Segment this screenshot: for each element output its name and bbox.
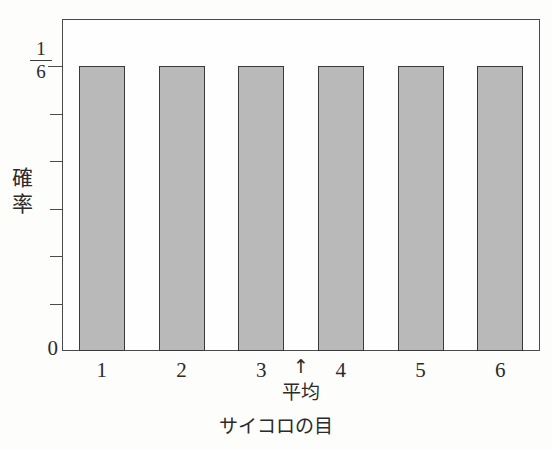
fraction-denominator: 6 [28,62,54,82]
x-tick-label-5: 5 [401,359,441,381]
x-tick-label-3: 3 [241,359,281,381]
bar-6 [477,66,523,351]
x-tick-label-1: 1 [82,359,122,381]
y-tick-minor-3 [50,209,63,210]
y-tick-minor-4 [50,256,63,257]
bar-5 [398,66,444,351]
y-tick-label-zero: 0 [38,338,58,359]
x-tick-label-4: 4 [321,359,361,381]
y-tick-minor-5 [50,304,63,305]
y-axis-title-char-2: 率 [9,191,35,217]
mean-arrow-icon: ↑ [289,356,313,376]
bar-4 [318,66,364,351]
y-tick-label-one-sixth: 1 6 [28,39,54,82]
bar-1 [79,66,125,351]
mean-annotation-label: 平均 [256,382,346,404]
x-tick-label-2: 2 [162,359,202,381]
y-axis-title-char-1: 確 [9,165,35,191]
bar-3 [238,66,284,351]
x-tick-label-6: 6 [480,359,520,381]
probability-bar-chart: 1 6 0 確 率 123456 ↑ 平均 サイコロの目 [0,0,552,450]
fraction-numerator: 1 [28,39,54,59]
bar-2 [159,66,205,351]
x-axis-title: サイコロの目 [0,415,552,439]
y-tick-minor-1 [50,114,63,115]
y-tick-minor-2 [50,161,63,162]
bars-layer [62,19,540,351]
y-axis-title: 確 率 [9,165,35,217]
